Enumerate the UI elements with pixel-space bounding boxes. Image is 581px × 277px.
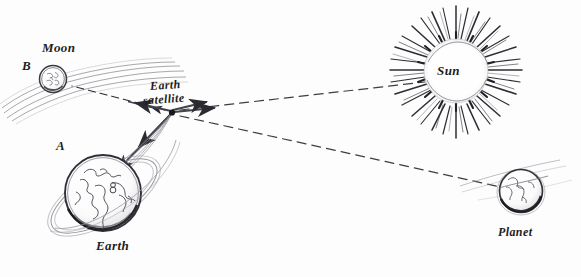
- label-point-a: A: [56, 138, 65, 154]
- label-earth-satellite-line2: satellite: [143, 91, 186, 109]
- label-earth: Earth: [96, 238, 129, 254]
- figure-canvas: Moon B A Earth Earth satellite Sun Plane…: [0, 0, 581, 277]
- earth-satellite-marker: [169, 109, 175, 115]
- sightline-satellite-to-sun: [180, 82, 425, 110]
- label-moon: Moon: [42, 40, 75, 56]
- label-point-b: B: [22, 58, 31, 74]
- label-planet: Planet: [498, 225, 532, 240]
- moon-body: [40, 66, 67, 93]
- earth-body: [65, 155, 141, 231]
- label-sun: Sun: [437, 63, 460, 79]
- sketch-svg: [0, 0, 581, 277]
- planet-body: [497, 169, 548, 215]
